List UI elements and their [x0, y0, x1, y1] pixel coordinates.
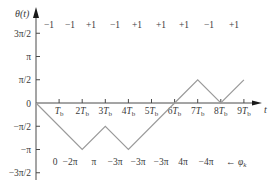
phase-value: −2π [63, 157, 78, 167]
x-tick-label: 7Tb [191, 106, 205, 118]
x-axis-label: t [264, 104, 267, 115]
x-tick-label: 4Tb [122, 106, 136, 118]
phase-path-line [36, 80, 244, 150]
y-tick-label: π [26, 52, 31, 62]
symbol-value: +1 [86, 20, 96, 30]
y-tick-label: 3π/2 [14, 29, 31, 39]
phase-trajectory-chart: θ(t) t 3π/2ππ/20−π/2−π−3π/2 Tb2Tb3Tb4Tb5… [0, 0, 273, 191]
phase-value: π [92, 157, 97, 167]
y-tick-label: 0 [26, 99, 31, 109]
phase-value: −4π [199, 157, 214, 167]
phase-row: 0−2ππ−3π−3π−3π4π−4π [53, 157, 214, 167]
x-tick-label: 9Tb [237, 106, 251, 118]
symbol-value: −1 [110, 20, 120, 30]
y-tick-label: −π/2 [13, 122, 31, 132]
phase-row-arrow-label: ← φk [226, 157, 247, 169]
phase-value: −3π [131, 157, 146, 167]
symbol-value: +1 [229, 20, 239, 30]
y-tick-label: −π [21, 145, 31, 155]
phase-value: 4π [178, 157, 188, 167]
symbol-value: −1 [204, 20, 214, 30]
x-tick-label: 3Tb [99, 106, 113, 118]
x-axis-arrow-icon [252, 101, 262, 106]
y-axis-arrow-icon [33, 7, 39, 18]
symbol-value: −1 [44, 20, 54, 30]
phase-value: −3π [108, 157, 123, 167]
x-tick-label: Tb [55, 106, 64, 118]
y-tick-label: π/2 [19, 75, 31, 85]
symbol-value: −1 [65, 20, 75, 30]
phase-value: 0 [53, 157, 58, 167]
y-tick-label: −3π/2 [9, 168, 32, 178]
symbol-value: +1 [156, 20, 166, 30]
x-tick-label: 5Tb [145, 106, 159, 118]
y-axis-label: θ(t) [15, 8, 30, 20]
symbol-row: −1−1+1−1+1+1+1−1+1 [44, 20, 239, 30]
phase-value: −3π [154, 157, 169, 167]
x-tick-label: 8Tb [214, 106, 228, 118]
x-tick-label: 2Tb [75, 106, 89, 118]
symbol-value: +1 [132, 20, 142, 30]
symbol-value: +1 [179, 20, 189, 30]
y-ticks: 3π/2ππ/20−π/2−π−3π/2 [9, 29, 40, 179]
